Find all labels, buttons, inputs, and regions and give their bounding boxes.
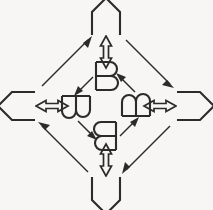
outer-bottom [92, 177, 120, 210]
figure-canvas [0, 0, 213, 210]
rotation-symmetry-figure: Rotation symmetry diagram of the letter … [0, 0, 213, 210]
